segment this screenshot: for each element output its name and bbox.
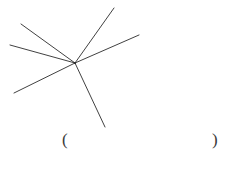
figure-page: ( ) [0, 0, 237, 169]
ray-lower-right [75, 63, 105, 127]
answer-blank-field[interactable] [74, 133, 210, 153]
vertex-point [74, 62, 76, 64]
answer-close-paren: ) [212, 131, 218, 148]
vertex-dot [74, 62, 76, 64]
rays-group [10, 8, 139, 127]
ray-left [10, 45, 75, 63]
answer-row: ( ) [0, 131, 237, 157]
ray-upper-left [21, 24, 75, 63]
ray-lower-left [14, 63, 75, 93]
answer-open-paren: ( [62, 131, 68, 148]
